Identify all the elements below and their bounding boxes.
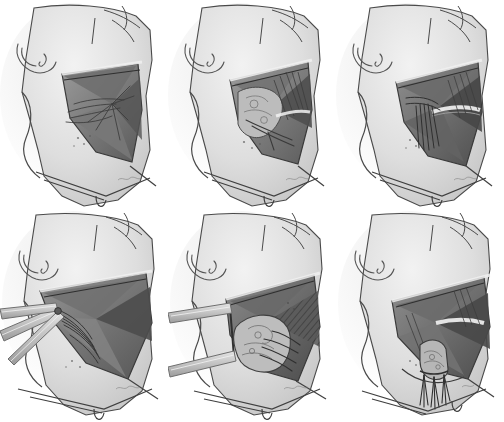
panel-6-pedicle-ligated: Pedicle ligated and divided; suture ties…	[336, 211, 504, 422]
panel-3-pedicle-skeletonized: Specimen mobilized, vascular pedicle ske…	[336, 0, 504, 211]
panel-4-retractors-placed: Wound held open with retractors, plane d…	[0, 211, 168, 422]
panel-2-deep-fascia-divided: Deep fascia divided, nodal tissue and mu…	[168, 0, 336, 211]
panel-1-skin-flap-elevated: Skin flap elevated exposing sternocleido…	[0, 0, 168, 211]
gland-or-tumour-mass	[234, 315, 291, 372]
ligated-stump	[420, 340, 448, 379]
retractor-hinge	[55, 308, 62, 315]
panel-5-mass-delivered: Gland or tumour mass delivered into the …	[168, 211, 336, 422]
surgical-illustration-plate: Skin flap elevated exposing sternocleido…	[0, 0, 504, 422]
